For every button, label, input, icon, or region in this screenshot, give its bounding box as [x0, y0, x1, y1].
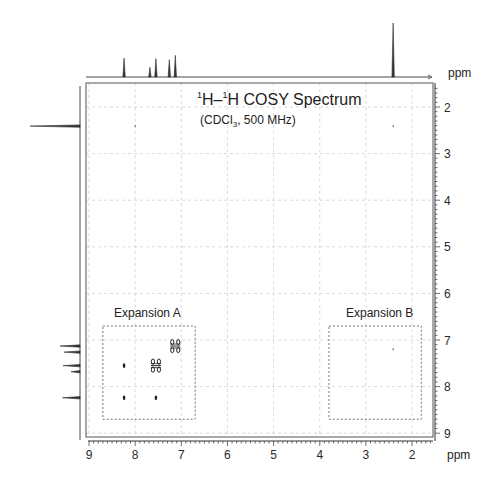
plot-frame	[86, 83, 433, 437]
top-axis-unit-label: ppm	[448, 66, 471, 80]
chart-subtitle: (CDCl3, 500 MHz)	[200, 113, 296, 127]
y-tick-label: 8	[444, 380, 451, 394]
contour	[123, 395, 126, 400]
y-tick-label: 6	[444, 287, 451, 301]
y-tick-label: 2	[444, 101, 451, 115]
cross-peak	[123, 363, 126, 368]
cross-peak	[393, 125, 394, 128]
contour	[393, 348, 394, 351]
contour	[135, 125, 136, 128]
cross-peaks	[123, 125, 394, 400]
gridlines	[86, 83, 433, 437]
bottom-axis-unit-label: ppm	[447, 448, 470, 462]
x-tick-label: 7	[178, 448, 185, 462]
x-tick-label: 5	[270, 448, 277, 462]
y-tick-label: 4	[444, 194, 451, 208]
x-tick-label: 4	[316, 448, 323, 462]
cross-peak	[135, 125, 136, 128]
y-tick-label: 3	[444, 147, 451, 161]
y-tick-label: 9	[444, 427, 451, 441]
x-tick-label: 9	[86, 448, 93, 462]
cross-peak	[393, 348, 394, 351]
chart-title: 1H–1H COSY Spectrum	[197, 91, 361, 109]
left-projection-peak	[63, 397, 81, 399]
cosy-plot-svg: 98765432 23456789	[0, 0, 491, 491]
contour	[155, 395, 158, 400]
expansion-a-label: Expansion A	[114, 306, 181, 320]
y-axis: 23456789	[435, 83, 451, 441]
x-tick-label: 8	[132, 448, 139, 462]
left-projection-peak	[64, 351, 80, 353]
x-tick-label: 3	[363, 448, 370, 462]
top-projection-peak	[168, 60, 170, 77]
left-projection-peak	[63, 364, 80, 366]
contour	[123, 363, 126, 368]
left-projection-peak	[60, 345, 80, 347]
cross-peak	[155, 395, 158, 400]
contour	[393, 125, 394, 128]
top-projection-peak	[174, 55, 176, 77]
cross-peak	[123, 395, 126, 400]
cosy-chart: 98765432 23456789 1H–1H COSY Spectrum (C…	[0, 0, 491, 491]
left-projection-peak	[30, 125, 80, 127]
expansion-b-label: Expansion B	[346, 306, 413, 320]
y-tick-label: 5	[444, 240, 451, 254]
top-projection-peak	[123, 58, 125, 77]
cross-peak	[151, 359, 161, 372]
x-axis: 98765432	[86, 441, 433, 462]
left-1d-projection	[30, 86, 80, 440]
left-projection-peak	[71, 370, 80, 372]
top-projection-peak	[392, 23, 394, 77]
top-projection-peak	[155, 59, 157, 77]
top-projection-peak	[149, 67, 151, 77]
y-tick-label: 7	[444, 334, 451, 348]
x-tick-label: 6	[224, 448, 231, 462]
x-tick-label: 2	[409, 448, 416, 462]
cross-peak	[170, 339, 180, 352]
top-1d-projection	[86, 23, 432, 79]
